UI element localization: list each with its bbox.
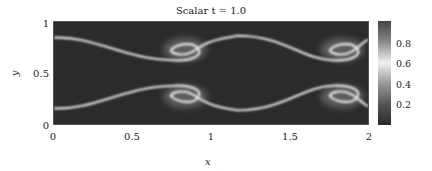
x-tick: 1 [208, 131, 214, 142]
x-tick: 1.5 [282, 131, 298, 142]
colorbar-tick: 0.6 [396, 58, 411, 69]
colorbar-tick: 0.2 [396, 99, 411, 110]
y-tick: 0 [43, 120, 49, 131]
x-tick: 2 [366, 131, 372, 142]
colorbar [378, 21, 391, 125]
colorbar-tick: 0.8 [396, 38, 411, 49]
y-axis-label: y [9, 71, 20, 77]
chart-title: Scalar t = 1.0 [53, 5, 369, 16]
heatmap-plot-area [53, 21, 369, 125]
x-tick: 0 [50, 131, 56, 142]
colorbar-tick: 0.4 [396, 79, 411, 90]
x-tick: 0.5 [124, 131, 140, 142]
x-axis-label: x [205, 156, 211, 167]
y-tick: 0.5 [33, 68, 49, 79]
y-tick: 1 [43, 18, 49, 29]
